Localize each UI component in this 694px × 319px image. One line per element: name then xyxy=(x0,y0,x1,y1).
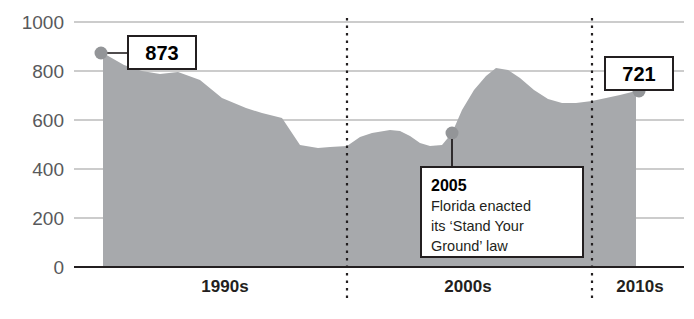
annotation-line-2: its ‘Stand Your xyxy=(431,218,524,234)
era-label-1990s: 1990s xyxy=(201,277,248,296)
era-label-2000s: 2000s xyxy=(444,277,491,296)
data-point-marker-873 xyxy=(95,47,108,60)
ytick-label-1000: 1000 xyxy=(22,12,64,33)
era-label-2010s: 2010s xyxy=(616,277,663,296)
x-axis-era-labels: 1990s 2000s 2010s xyxy=(201,277,663,296)
ytick-label-800: 800 xyxy=(32,61,64,82)
callout-end-721: 721 xyxy=(605,57,673,98)
annotation-line-1: Florida enacted xyxy=(431,198,531,214)
annotation-line-3: Ground’ law xyxy=(431,238,508,254)
annotation-title-2005: 2005 xyxy=(431,177,467,194)
chart-page: 1000 800 600 400 200 0 1990s 2000s 2010s xyxy=(0,0,694,319)
ytick-label-600: 600 xyxy=(32,110,64,131)
ytick-label-200: 200 xyxy=(32,208,64,229)
data-point-marker-2005 xyxy=(446,127,459,140)
ytick-label-400: 400 xyxy=(32,159,64,180)
ytick-label-0: 0 xyxy=(53,257,64,278)
y-axis-ticks: 1000 800 600 400 200 0 xyxy=(22,12,64,278)
callout-label-721: 721 xyxy=(622,63,655,85)
area-chart: 1000 800 600 400 200 0 1990s 2000s 2010s xyxy=(0,0,694,319)
callout-label-873: 873 xyxy=(145,42,178,64)
